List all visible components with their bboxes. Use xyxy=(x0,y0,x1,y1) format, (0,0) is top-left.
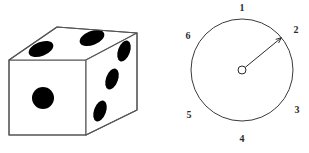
spinner-label-5: 5 xyxy=(187,109,192,120)
die-pip xyxy=(32,87,54,109)
spinner-label-4: 4 xyxy=(240,133,245,144)
spinner-group: 1 2 3 4 5 6 xyxy=(186,2,300,144)
spinner-hub xyxy=(238,66,246,74)
spinner-label-2: 2 xyxy=(294,24,299,35)
die-face-front xyxy=(9,60,86,135)
die-group xyxy=(9,27,137,135)
figure-container: 1 2 3 4 5 6 xyxy=(0,0,309,153)
spinner-label-1: 1 xyxy=(240,2,245,13)
figure-canvas: 1 2 3 4 5 6 xyxy=(0,0,309,153)
spinner-label-6: 6 xyxy=(186,30,191,41)
spinner-label-3: 3 xyxy=(295,104,300,115)
